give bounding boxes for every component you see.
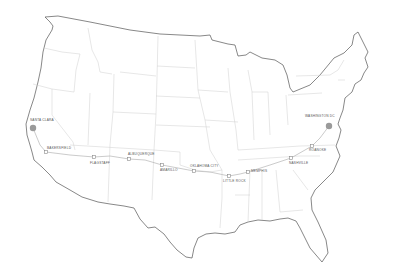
label-albuquerque: Albuquerque <box>128 153 155 156</box>
stop-nashville[interactable] <box>290 157 293 160</box>
stop-oklahoma-city[interactable] <box>193 170 196 173</box>
label-little-rock: Little Rock <box>223 180 246 183</box>
us-map <box>0 0 399 276</box>
endpoint-washington-dc[interactable] <box>326 123 332 129</box>
label-memphis: Memphis <box>251 170 267 173</box>
stop-little-rock[interactable] <box>228 175 231 178</box>
us-outline <box>26 16 368 262</box>
stop-amarillo[interactable] <box>161 164 164 167</box>
label-roanoke: Roanoke <box>309 149 326 152</box>
label-washington-dc: Washington DC <box>305 115 335 118</box>
label-bakersfield: Bakersfield <box>47 147 71 150</box>
label-oklahoma-city: Oklahoma City <box>190 165 219 168</box>
label-amarillo: Amarillo <box>160 169 178 172</box>
label-santa-clara: Santa Clara <box>30 119 54 122</box>
stop-albuquerque[interactable] <box>128 158 131 161</box>
label-nashville: Nashville <box>289 162 308 165</box>
stop-flagstaff[interactable] <box>93 156 96 159</box>
endpoint-santa-clara[interactable] <box>30 125 36 131</box>
stop-bakersfield[interactable] <box>45 151 48 154</box>
stop-memphis[interactable] <box>247 171 250 174</box>
label-flagstaff: Flagstaff <box>90 162 110 165</box>
